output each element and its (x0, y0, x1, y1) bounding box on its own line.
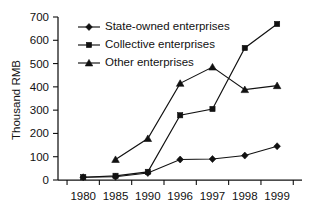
legend-item-triangle: Other enterprises (78, 56, 194, 68)
y-tick-label: 700 (30, 11, 49, 23)
legend-label: Other enterprises (105, 56, 194, 68)
square-marker (210, 106, 215, 111)
triangle-marker (176, 80, 184, 87)
square-marker (275, 21, 280, 26)
y-tick-label: 100 (30, 151, 49, 163)
y-tick-label: 600 (30, 34, 49, 46)
legend-label: State-owned enterprises (105, 20, 230, 32)
x-tick-label: 1998 (232, 190, 258, 202)
y-axis-title: Thousand RMB (10, 60, 22, 140)
square-marker (113, 173, 118, 178)
diamond-marker (274, 143, 281, 150)
y-tick-label: 500 (30, 58, 49, 70)
square-marker (145, 169, 150, 174)
x-tick-label: 1999 (264, 190, 290, 202)
triangle-marker (144, 135, 152, 142)
diamond-marker (241, 152, 248, 159)
legend-item-square: Collective enterprises (78, 38, 215, 50)
diamond-marker (86, 24, 93, 31)
legend-item-diamond: State-owned enterprises (78, 20, 230, 32)
x-tick-label: 1985 (103, 190, 129, 202)
y-tick-label: 200 (30, 127, 49, 139)
diamond-marker (209, 156, 216, 163)
square-marker (242, 45, 247, 50)
square-marker (178, 113, 183, 118)
y-axis-ticks: 0100200300400500600700 (30, 11, 58, 186)
series-triangle (112, 63, 281, 162)
y-tick-label: 0 (43, 174, 49, 186)
square-marker (86, 42, 91, 47)
triangle-marker (209, 63, 217, 70)
diamond-marker (177, 156, 184, 163)
x-tick-label: 1980 (70, 190, 96, 202)
square-marker (81, 175, 86, 180)
x-axis-ticks: 1980198519901996199719981999 (67, 180, 293, 202)
triangle-marker (273, 82, 281, 89)
series-diamond (80, 143, 281, 181)
x-tick-label: 1997 (200, 190, 226, 202)
x-tick-label: 1996 (167, 190, 193, 202)
y-tick-label: 300 (30, 104, 49, 116)
series-line (116, 67, 278, 159)
line-chart: Thousand RMB 0100200300400500600700 1980… (0, 0, 312, 212)
chart-canvas: Thousand RMB 0100200300400500600700 1980… (0, 0, 312, 212)
y-axis-title-group: Thousand RMB (10, 60, 22, 140)
legend-label: Collective enterprises (105, 38, 215, 50)
y-tick-label: 400 (30, 81, 49, 93)
x-tick-label: 1990 (135, 190, 161, 202)
chart-legend: State-owned enterprisesCollective enterp… (78, 20, 230, 68)
triangle-marker (112, 156, 120, 163)
